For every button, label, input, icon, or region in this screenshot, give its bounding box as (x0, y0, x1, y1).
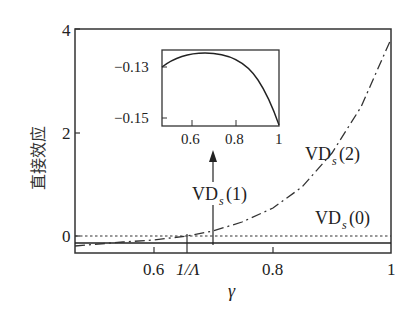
x-axis-label: γ (228, 281, 236, 301)
y-tick-0: 0 (62, 227, 71, 246)
svg-text:VD: VD (305, 144, 331, 164)
inset-x-tick-06: 0.6 (181, 131, 200, 147)
y-axis-label: 直接效应 (29, 126, 48, 190)
inset-y-tick-015: −0.15 (114, 110, 149, 126)
label-vd1: VD s (1) (192, 184, 247, 208)
svg-text:VD: VD (192, 184, 218, 204)
svg-text:s: s (342, 218, 347, 232)
svg-text:s: s (219, 194, 224, 208)
svg-text:VD: VD (315, 208, 341, 228)
x-tick-1: 1 (387, 260, 396, 279)
svg-text:(0): (0) (349, 208, 370, 229)
inset-x-tick-1: 1 (275, 131, 283, 147)
svg-text:(2): (2) (339, 144, 360, 165)
x-tick-0.8: 0.8 (262, 260, 283, 279)
inset-x-tick-08: 0.8 (225, 131, 244, 147)
x-tick-inv-lambda: 1/Λ (176, 260, 200, 279)
svg-text:s: s (332, 154, 337, 168)
label-vd2: VD s (2) (305, 144, 360, 168)
x-tick-0.6: 0.6 (143, 260, 164, 279)
x-axis: 0.6 1/Λ 0.8 1 γ (143, 234, 396, 301)
svg-text:(1): (1) (226, 184, 247, 205)
label-vd0: VD s (0) (315, 208, 370, 232)
y-tick-2: 2 (62, 124, 71, 143)
inset-chart: −0.13 −0.15 0.6 0.8 1 (114, 50, 283, 147)
y-tick-4: 4 (62, 21, 71, 40)
chart: 4 2 0 直接效应 0.6 1/Λ 0.8 1 γ VD s (2) VD s… (0, 0, 412, 322)
y-axis: 4 2 0 (62, 21, 80, 246)
inset-y-tick-013: −0.13 (114, 59, 149, 75)
